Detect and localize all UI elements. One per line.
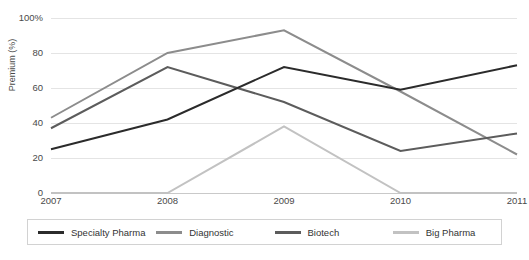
legend-item[interactable]: Diagnostic bbox=[146, 227, 264, 238]
x-axis-tick-label: 2009 bbox=[273, 196, 294, 206]
series-line bbox=[51, 127, 517, 194]
x-axis-tick-label: 2007 bbox=[40, 196, 61, 206]
legend-item[interactable]: Biotech bbox=[265, 227, 383, 238]
legend-line-icon bbox=[275, 231, 301, 234]
legend-line-icon bbox=[38, 231, 64, 234]
legend-item-label: Big Pharma bbox=[426, 227, 476, 238]
y-axis-tick-label: 100% bbox=[19, 13, 43, 23]
legend-item[interactable]: Specialty Pharma bbox=[28, 227, 146, 238]
y-axis-tick-label: 80 bbox=[32, 48, 43, 58]
legend-item-label: Specialty Pharma bbox=[71, 227, 145, 238]
y-axis-tick-label: 40 bbox=[32, 118, 43, 128]
x-axis: 20072008200920102011 bbox=[51, 196, 517, 212]
series-layer bbox=[51, 18, 517, 193]
y-axis-tick-label: 20 bbox=[32, 153, 43, 163]
legend-item[interactable]: Big Pharma bbox=[383, 227, 501, 238]
x-axis-tick-label: 2010 bbox=[390, 196, 411, 206]
legend-line-icon bbox=[156, 231, 182, 234]
y-axis: 100%806040200 bbox=[0, 18, 47, 193]
line-chart: Premium (%) 100%806040200 20072008200920… bbox=[0, 0, 529, 260]
legend-item-label: Diagnostic bbox=[189, 227, 233, 238]
x-axis-tick-label: 2011 bbox=[507, 196, 527, 206]
y-axis-tick-label: 60 bbox=[32, 83, 43, 93]
legend-item-label: Biotech bbox=[308, 227, 340, 238]
chart-legend: Specialty PharmaDiagnosticBiotechBig Pha… bbox=[27, 219, 502, 245]
x-axis-tick-label: 2008 bbox=[157, 196, 178, 206]
plot-area bbox=[51, 18, 517, 193]
legend-line-icon bbox=[393, 231, 419, 234]
